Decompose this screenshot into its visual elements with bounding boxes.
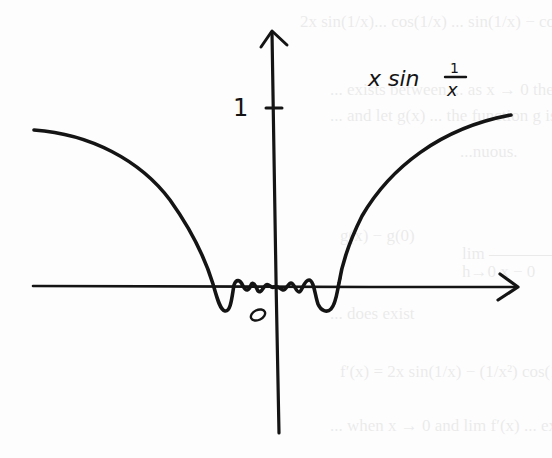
figure-canvas: 2x sin(1/x)... cos(1/x) ... sin(1/x) − c… bbox=[0, 0, 552, 458]
function-label-prefix: x sin bbox=[367, 66, 420, 91]
origin-label-text: 0 bbox=[0, 0, 1, 1]
function-plot: 1 0 x sin 1 x bbox=[0, 0, 552, 458]
y-tick-label: 1 bbox=[233, 94, 248, 122]
function-label-numerator: 1 bbox=[450, 60, 459, 76]
y-axis bbox=[261, 31, 287, 433]
y-axis-arrowhead-icon bbox=[261, 31, 287, 47]
function-label: x sin 1 x bbox=[367, 60, 466, 100]
origin-label: 0 bbox=[0, 0, 267, 323]
function-label-denominator: x bbox=[446, 79, 458, 100]
